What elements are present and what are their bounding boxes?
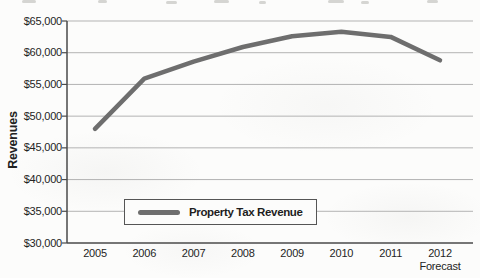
y-axis-tick-label: $30,000: [14, 237, 62, 250]
x-axis-tick-label: 2005: [83, 247, 107, 259]
property-tax-revenue-line: [95, 32, 440, 129]
x-axis-tick-label: 2007: [182, 247, 206, 259]
legend-line-swatch: [138, 210, 180, 215]
x-axis-tick-label: 2008: [231, 247, 255, 259]
y-axis-tick-label: $40,000: [14, 173, 62, 186]
chart-container: Revenues $65,000$60,000$55,000$50,000$45…: [0, 0, 480, 278]
legend-box: Property Tax Revenue: [124, 199, 317, 225]
y-axis-tick-label: $55,000: [14, 78, 62, 91]
legend-label: Property Tax Revenue: [189, 206, 303, 218]
y-axis-tick-label: $65,000: [14, 15, 62, 28]
revenue-line-chart: [0, 0, 480, 278]
y-axis-tick-label: $35,000: [14, 205, 62, 218]
x-axis-tick-label: 2006: [132, 247, 156, 259]
x-axis-tick-label: 2012: [428, 247, 452, 259]
y-axis-tick-label: $45,000: [14, 141, 62, 154]
x-axis-tick-label: 2011: [379, 247, 402, 259]
y-axis-tick-label: $50,000: [14, 110, 62, 123]
x-axis-tick-label: 2010: [330, 247, 354, 259]
x-axis-tick-label: 2009: [280, 247, 304, 259]
x-axis-forecast-sublabel: Forecast: [419, 260, 460, 272]
y-axis-tick-label: $60,000: [14, 46, 62, 59]
